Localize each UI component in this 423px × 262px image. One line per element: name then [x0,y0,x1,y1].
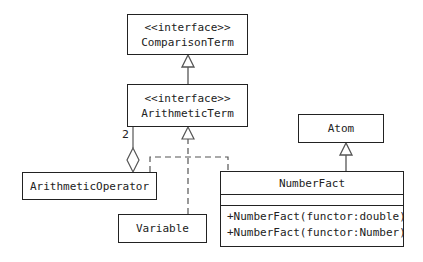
uml-class-diagram: <<interface>> ComparisonTerm <<interface… [0,0,423,262]
class-name: Atom [299,122,383,135]
stereotype-label: <<interface>> [128,92,247,105]
class-number-fact[interactable]: NumberFact +NumberFact(functor:double) +… [220,171,404,247]
attributes-divider [221,194,403,195]
generalization-numberfact-atom [340,143,352,171]
multiplicity-label: 2 [122,128,129,141]
generalization-arithmeticterm-comparisonterm [182,55,194,84]
operations-divider [221,205,403,206]
class-name: ArithmeticTerm [128,107,247,120]
class-name: ArithmeticOperator [23,180,156,193]
stereotype-label: <<interface>> [128,21,247,34]
operation-item: +NumberFact(functor:double) [227,209,406,224]
class-name: NumberFact [221,177,403,190]
class-comparison-term[interactable]: <<interface>> ComparisonTerm [127,14,248,55]
realization-operator-numberfact [150,157,228,172]
class-arithmetic-term[interactable]: <<interface>> ArithmeticTerm [127,84,248,127]
operation-item: +NumberFact(functor:Number) [227,225,406,240]
class-arithmetic-operator[interactable]: ArithmeticOperator [22,172,157,200]
class-atom[interactable]: Atom [298,114,384,143]
class-variable[interactable]: Variable [118,214,207,243]
realization-variable-arithmeticterm [182,127,194,214]
class-name: ComparisonTerm [128,36,247,49]
class-name: Variable [119,222,206,235]
